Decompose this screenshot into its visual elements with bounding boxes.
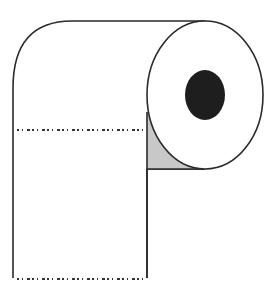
core-hole <box>185 70 225 120</box>
toilet-paper-roll-illustration <box>0 0 278 295</box>
